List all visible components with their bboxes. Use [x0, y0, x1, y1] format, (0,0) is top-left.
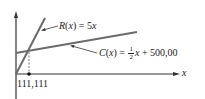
revenue-function-label: R(x) = 5x	[59, 21, 96, 31]
y-axis-arrow-icon	[14, 11, 18, 18]
break-even-point-marker	[27, 72, 31, 76]
break-even-x-value: 111,111	[17, 79, 48, 89]
cost-function-label: C(x) = 12x + 500,00	[99, 46, 178, 61]
cost-label-leader	[72, 46, 97, 53]
revenue-leader-arrow-icon	[41, 28, 46, 31]
one-half-fraction: 12	[128, 46, 134, 61]
cost-leader-arrow-icon	[70, 45, 75, 48]
x-axis-label: x	[182, 68, 186, 78]
revenue-line	[16, 18, 45, 74]
x-axis-arrow-icon	[173, 72, 180, 76]
